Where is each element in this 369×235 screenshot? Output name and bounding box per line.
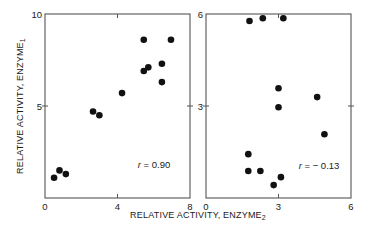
data-point — [63, 171, 70, 178]
data-point — [246, 18, 253, 25]
data-point — [245, 151, 252, 158]
y-axis-title: RELATIVE ACTIVITY, ENZYME1 — [15, 38, 26, 174]
scatter-chart-figure: 048510 r = 0.90 03636 r = − 0.13 RELATIV… — [0, 0, 369, 235]
right-axis-ticks: 03636 — [198, 9, 354, 212]
left-panel: 048510 r = 0.90 — [31, 9, 193, 212]
left-x-tick-label: 4 — [115, 201, 120, 212]
data-point — [159, 60, 166, 67]
right-panel: 03636 r = − 0.13 — [198, 9, 354, 212]
data-point — [168, 36, 175, 43]
data-point — [314, 94, 321, 101]
right-x-tick-label: 6 — [348, 201, 353, 212]
left-x-tick-label: 0 — [42, 201, 47, 212]
data-point — [96, 112, 103, 119]
data-point — [56, 167, 63, 174]
right-y-tick-label: 6 — [198, 9, 203, 20]
data-point — [145, 64, 152, 71]
data-point — [270, 182, 277, 189]
data-point — [275, 85, 282, 92]
data-point — [257, 168, 264, 175]
data-point — [259, 15, 266, 22]
right-correlation-annotation: r = − 0.13 — [299, 160, 340, 171]
data-point — [51, 174, 58, 181]
right-x-tick-label: 3 — [276, 201, 281, 212]
data-point — [140, 36, 147, 43]
right-y-tick-label: 3 — [198, 101, 203, 112]
data-point — [280, 15, 287, 22]
data-point — [245, 168, 252, 175]
data-point — [90, 108, 97, 115]
data-point — [119, 90, 126, 97]
x-axis-title: RELATIVE ACTIVITY, ENZYME2 — [130, 210, 266, 221]
left-y-tick-label: 10 — [31, 9, 42, 20]
data-point — [278, 174, 285, 181]
data-point — [321, 131, 328, 138]
left-correlation-annotation: r = 0.90 — [138, 159, 171, 170]
data-point — [159, 79, 166, 86]
left-y-tick-label: 5 — [37, 101, 42, 112]
data-point — [275, 104, 282, 111]
